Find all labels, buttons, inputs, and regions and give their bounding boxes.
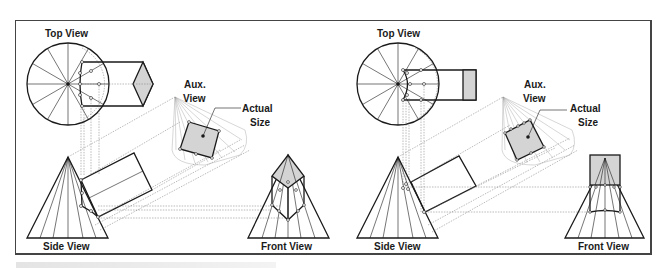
left-actual-size-label-line1: Actual — [242, 103, 273, 115]
right-front-view-label: Front View — [578, 241, 629, 253]
figure-caption-blurred — [16, 262, 276, 268]
left-side-view-label: Side View — [43, 241, 90, 253]
left-aux-view-label-line1: Aux. — [184, 79, 206, 91]
left-top-view — [27, 43, 153, 175]
left-panel — [27, 43, 329, 238]
left-top-view-label: Top View — [45, 28, 88, 40]
left-side-view — [27, 153, 152, 238]
right-top-view-label: Top View — [377, 28, 420, 40]
right-actual-size-label-line2: Size — [578, 117, 598, 129]
left-front-view — [248, 155, 329, 238]
left-aux-view-label-line2: View — [183, 93, 206, 105]
right-top-view — [357, 43, 476, 212]
right-aux-view-label-line2: View — [523, 93, 546, 105]
left-front-view-label: Front View — [261, 241, 312, 253]
right-front-view — [565, 155, 644, 238]
technical-drawing: .k { stroke:#1a1a1a; fill:none; stroke-w… — [0, 0, 665, 271]
right-aux-view-label-line1: Aux. — [524, 79, 546, 91]
right-panel — [357, 43, 644, 238]
left-aux-view — [172, 97, 247, 165]
right-side-view-label: Side View — [374, 241, 421, 253]
right-actual-size-label-line1: Actual — [570, 103, 601, 115]
right-aux-view — [502, 97, 575, 165]
left-actual-size-label-line2: Size — [250, 117, 270, 129]
right-side-view — [357, 156, 476, 238]
